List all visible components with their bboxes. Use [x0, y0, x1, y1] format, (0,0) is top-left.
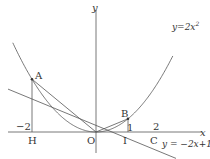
point-b-label: B: [121, 108, 128, 119]
point-a-label: A: [34, 70, 43, 81]
diagram-canvas: y x O A B C H I −2 1 2 y=2x2 y = −2x+1: [0, 0, 210, 159]
point-a-dot: [31, 78, 34, 81]
tick-label-one: 1: [127, 122, 133, 133]
line-ab-c: [8, 89, 176, 158]
parabola-equation-label: y=2x2: [171, 20, 199, 32]
segment-a-o: [32, 79, 96, 132]
line-equation-label: y = −2x+1: [161, 139, 210, 149]
tick-label-neg-two: −2: [16, 121, 31, 132]
parabola-curve: [13, 43, 173, 132]
point-i-label: I: [123, 135, 127, 146]
y-axis-label: y: [91, 2, 98, 13]
origin-label: O: [87, 135, 95, 146]
point-c-label: C: [150, 135, 158, 146]
x-axis-label: x: [200, 127, 206, 138]
tick-label-two: 2: [153, 121, 159, 132]
point-h-label: H: [28, 135, 37, 146]
segment-o-b: [96, 119, 128, 132]
